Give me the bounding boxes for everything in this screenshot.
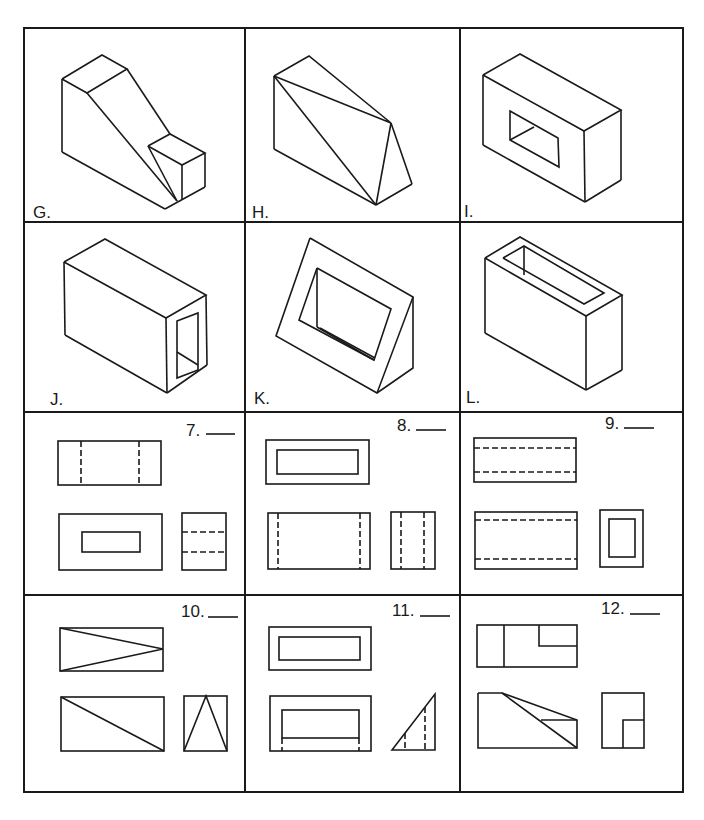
problem-8: 8. — [266, 416, 446, 569]
problem-11: 11. — [269, 601, 450, 751]
drawing-rectangular-tube — [64, 239, 207, 393]
pictorial-l: L. — [466, 237, 622, 407]
view-right — [600, 510, 643, 567]
view-right — [184, 696, 227, 751]
pictorial-label: L. — [466, 388, 480, 407]
view-right — [391, 512, 435, 569]
pictorial-g: G. — [33, 55, 205, 222]
problem-number: 10. — [181, 602, 205, 621]
drawing-triangular-wedge-prism — [274, 56, 412, 205]
view-right — [602, 693, 644, 748]
drawing-stepped-ramp-block — [62, 55, 205, 209]
problem-number: 9. — [605, 414, 619, 433]
view-top — [60, 628, 163, 671]
pictorial-k: K. — [254, 238, 413, 408]
view-top — [269, 627, 371, 670]
pictorial-label: K. — [254, 389, 270, 408]
view-top — [266, 440, 369, 484]
view-front — [478, 693, 577, 748]
view-front — [61, 697, 164, 751]
problem-number: 12. — [601, 599, 625, 618]
pictorial-label: G. — [33, 203, 51, 222]
worksheet: G. H. I. — [0, 0, 704, 820]
drawing-triangular-frame — [276, 238, 413, 393]
problem-7: 7. — [58, 421, 235, 570]
problem-number: 7. — [186, 421, 200, 440]
pictorial-j: J. — [50, 239, 207, 409]
view-top — [58, 441, 161, 485]
problem-9: 9. — [474, 414, 654, 569]
problem-number: 8. — [397, 416, 411, 435]
problem-10: 10. — [60, 602, 238, 751]
view-right — [182, 513, 226, 570]
view-top — [474, 438, 576, 482]
pictorial-i: I. — [464, 54, 621, 221]
drawing-block-with-hole — [483, 54, 621, 202]
view-front — [59, 514, 162, 570]
view-top — [477, 625, 577, 667]
pictorial-label: J. — [50, 390, 63, 409]
pictorial-h: H. — [252, 56, 412, 222]
pictorial-label: I. — [464, 202, 473, 221]
problem-number: 11. — [392, 601, 414, 620]
problem-12: 12. — [477, 599, 660, 748]
view-front — [270, 696, 371, 751]
drawing-open-top-box — [485, 237, 622, 390]
pictorial-label: H. — [252, 203, 269, 222]
view-front — [475, 512, 577, 569]
view-right — [392, 694, 435, 750]
view-front — [268, 513, 370, 569]
